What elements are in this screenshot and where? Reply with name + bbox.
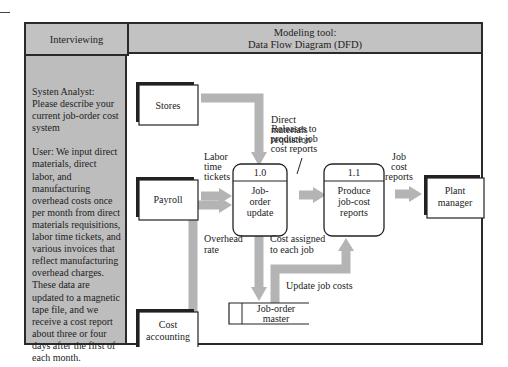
process-1-1-line-2: job-cost (337, 196, 370, 207)
process-1-0-line-3: update (247, 207, 274, 218)
interviewing-title: Interviewing (50, 34, 104, 45)
arrowhead-down-icon (251, 287, 267, 301)
modeling-tool-header: Modeling tool: Data Flow Diagram (DFD) (129, 24, 481, 54)
flow-label-cost-assigned-2: to each job (270, 244, 314, 255)
process-1-0: 1.0 Job- order update (233, 164, 287, 236)
process-1-0-line-2: order (249, 196, 271, 207)
modeling-frame: Interviewing Modeling tool: Data Flow Di… (24, 22, 483, 345)
plant-manager-label-1: Plant (445, 185, 466, 196)
data-store-label-2: master (263, 313, 290, 324)
flow-label-cost-assigned-1: Cost assigned (270, 233, 325, 244)
flow-label-overhead: Overhead (204, 233, 243, 244)
dfd-svg: Stores Payroll Cost accounting Plant man (129, 56, 485, 347)
entity-plant-manager: Plant manager (424, 175, 484, 218)
modeling-tool-title: Modeling tool: (129, 27, 481, 39)
process-1-1-line-3: reports (340, 207, 368, 218)
process-1-0-id: 1.0 (254, 167, 267, 178)
flow-label-releases-3: cost reports (271, 143, 317, 154)
arrowhead-up-icon (338, 238, 354, 251)
interview-transcript: Systen Analyst: Please describe your cur… (26, 56, 127, 343)
entity-cost-accounting: Cost accounting (136, 309, 198, 347)
data-store-job-order-master: Job-order master (229, 303, 309, 324)
flow-label-reports: reports (385, 171, 413, 182)
entity-payroll: Payroll (136, 177, 198, 220)
entity-stores: Stores (136, 82, 198, 125)
flow-label-tickets: tickets (204, 171, 230, 182)
analyst-question: Systen Analyst: Please describe your cur… (32, 86, 121, 134)
dfd-canvas: Stores Payroll Cost accounting Plant man (129, 56, 481, 343)
process-1-1: 1.1 Produce job-cost reports (324, 164, 384, 236)
flow-label-update-job-costs: Update job costs (286, 280, 353, 291)
plant-manager-label-2: manager (438, 197, 473, 208)
flow-label-rate: rate (204, 244, 220, 255)
direct-materials-arrow (201, 98, 259, 154)
modeling-tool-subtitle: Data Flow Diagram (DFD) (129, 39, 481, 51)
cost-accounting-label-1: Cost (159, 319, 178, 330)
releases-leader-line (297, 158, 302, 174)
interviewing-header: Interviewing (26, 24, 129, 56)
cost-accounting-label-2: accounting (146, 331, 190, 342)
process-1-1-line-1: Produce (338, 185, 371, 196)
process-1-0-line-1: Job- (251, 185, 268, 196)
arrowhead-right-icon (409, 186, 422, 202)
process-1-1-id: 1.1 (348, 167, 361, 178)
payroll-label: Payroll (154, 194, 183, 205)
margin-tick (0, 12, 10, 13)
stores-label: Stores (156, 100, 181, 111)
user-answer: User: We input direct materials, direct … (32, 146, 121, 364)
update-job-costs-arrow (275, 249, 346, 303)
